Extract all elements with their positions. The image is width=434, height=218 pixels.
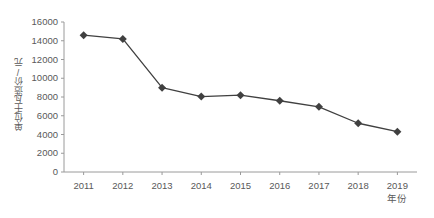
line-chart: 单位千瓦造价/元 0200040006000800010000120001400… bbox=[0, 0, 434, 218]
data-point-marker bbox=[80, 31, 88, 39]
data-point-marker bbox=[276, 97, 284, 105]
data-point-marker bbox=[315, 103, 323, 111]
series-markers bbox=[80, 31, 402, 136]
plot-area bbox=[0, 0, 434, 218]
series-line bbox=[84, 35, 398, 132]
data-point-marker bbox=[197, 93, 205, 101]
data-point-marker bbox=[354, 119, 362, 127]
data-point-marker bbox=[393, 128, 401, 136]
data-point-marker bbox=[237, 91, 245, 99]
